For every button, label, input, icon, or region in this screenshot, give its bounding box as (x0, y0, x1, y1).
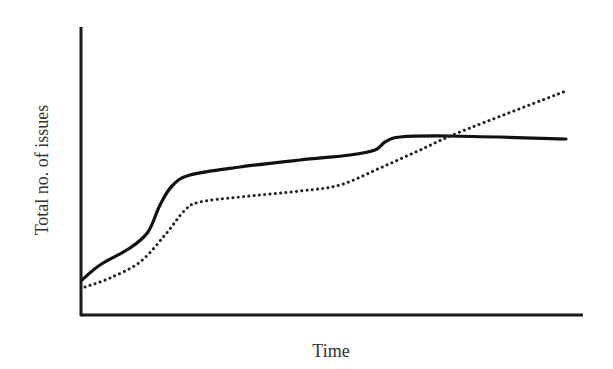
x-axis-label: Time (312, 341, 349, 362)
chart-canvas (0, 0, 613, 369)
solid-series-line (82, 136, 566, 280)
y-axis-label: Total no. of issues (32, 105, 53, 236)
dotted-series-line (85, 91, 566, 287)
